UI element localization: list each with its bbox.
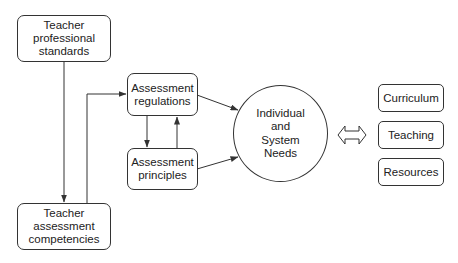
node-label-line: competencies [29,233,100,246]
node-assessment-principles: Assessment principles [127,148,198,190]
node-label-line: Teacher [44,207,85,220]
node-teacher-assessment-competencies: Teacher assessment competencies [17,203,111,250]
node-label-line: Teacher [44,19,85,32]
node-label-line: and [271,120,290,134]
node-label-line: principles [138,169,187,182]
arrow-competencies-to-regulations [87,94,126,203]
node-label-line: System [261,134,299,148]
node-label-line: Individual [256,107,305,121]
node-label-line: assessment [33,220,94,233]
node-label-line: Assessment [131,156,194,169]
node-label-line: Assessment [131,82,194,95]
node-label-line: Needs [264,147,297,161]
arrow-principles-to-needs [197,157,238,169]
node-teaching: Teaching [378,121,444,149]
node-teacher-professional-standards: Teacher professional standards [17,15,111,62]
node-resources: Resources [378,158,444,186]
arrow-regulations-to-needs [197,95,238,110]
node-label-line: Resources [384,166,439,179]
node-label-line: standards [39,45,90,58]
double-arrow-icon [338,126,366,144]
node-label-line: Curriculum [383,92,439,105]
node-label-line: Teaching [388,129,434,142]
node-curriculum: Curriculum [378,84,444,112]
node-label-line: professional [33,32,95,45]
node-individual-and-system-needs: Individual and System Needs [233,85,328,182]
node-assessment-regulations: Assessment regulations [127,73,198,116]
node-label-line: regulations [134,95,190,108]
